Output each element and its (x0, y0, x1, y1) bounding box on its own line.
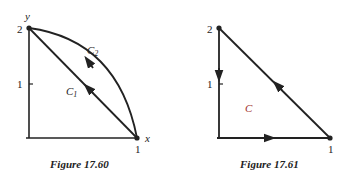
y-tick-label-1: 1 (17, 78, 23, 90)
x-tick-label-1: 1 (135, 143, 141, 155)
segment-hypotenuse (219, 28, 330, 138)
point-1-0 (327, 135, 332, 140)
segment-hypotenuse-arrow (277, 85, 282, 90)
point-1-0 (134, 135, 139, 140)
figure-17-61: 2 1 1 C Figure 17.61 (207, 23, 334, 170)
curve-c1 (29, 28, 137, 138)
label-c2: C2 (87, 44, 98, 58)
x-axis-label: x (144, 132, 150, 144)
y-tick-label-2: 2 (17, 23, 23, 35)
y-tick-label-2: 2 (207, 23, 213, 35)
label-c1: C1 (66, 85, 77, 99)
point-0-2 (26, 25, 31, 30)
curve-c1-arrow (88, 88, 93, 93)
x-tick-label-1: 1 (328, 143, 334, 155)
region-label-c: C (245, 102, 253, 114)
figure-17-60: y x 2 1 1 C2 C1 Figure 17.60 (17, 10, 150, 170)
y-tick-label-1: 1 (207, 78, 213, 90)
point-0-2 (216, 25, 221, 30)
figure-caption: Figure 17.60 (49, 158, 109, 170)
curve-c2-arrow (88, 61, 93, 68)
figures-canvas: y x 2 1 1 C2 C1 Figure 17.60 2 1 (0, 0, 356, 180)
y-axis-label: y (24, 10, 30, 22)
figure-caption: Figure 17.61 (239, 158, 299, 170)
